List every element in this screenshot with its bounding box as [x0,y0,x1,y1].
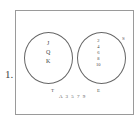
set-t-elements: J Q K [46,39,50,66]
problem-number: 1. [5,68,13,80]
outside-elements: A 3 5 7 9 [59,94,86,99]
set-t-label: T [51,88,54,93]
set-element: 10 [96,62,101,68]
set-e-label: E [97,88,100,93]
set-element: Q [46,48,50,57]
set-e-elements: 2 4 6 8 10 [96,38,101,68]
universal-set-label: S [122,36,125,41]
set-element: J [47,39,49,48]
universal-set-box: S J Q K T 2 4 6 8 10 E A 3 5 7 9 [15,10,134,115]
set-element: K [46,57,50,66]
set-e-circle [77,32,126,84]
